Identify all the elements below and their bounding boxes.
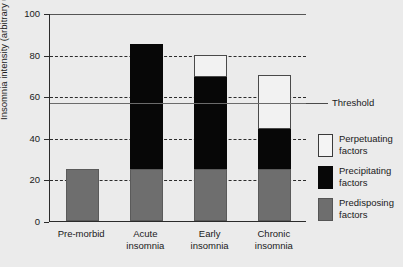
legend-item: Perpetuatingfactors <box>318 133 403 165</box>
y-axis-tick-label: 60 <box>0 92 40 102</box>
y-axis-tick-label: 40 <box>0 134 40 144</box>
legend-item: Predisposingfactors <box>318 197 403 229</box>
bar-segment-perpetuating <box>194 55 227 78</box>
x-axis-label: Chronicinsomnia <box>224 228 324 251</box>
bar-group <box>66 13 99 221</box>
bar-group <box>258 13 291 221</box>
threshold-rule <box>50 103 306 104</box>
legend-item-label: Precipitatingfactors <box>339 165 403 188</box>
legend-item: Precipitatingfactors <box>318 165 403 197</box>
bar-segment-predisposing <box>258 169 291 221</box>
threshold-label: Threshold <box>332 98 374 108</box>
bar-segment-predisposing <box>130 169 163 221</box>
y-axis-tick-label: 80 <box>0 51 40 61</box>
y-axis-tick-label: 20 <box>0 175 40 185</box>
bar-segment-predisposing <box>66 169 99 221</box>
y-axis-tick-label: 0 <box>0 217 40 227</box>
legend-swatch-perpetuating <box>318 134 333 157</box>
bar-group <box>130 13 163 221</box>
y-axis-tick-mark <box>44 222 49 223</box>
bar-segment-perpetuating <box>258 75 291 129</box>
bar-group <box>194 13 227 221</box>
bar-segment-predisposing <box>194 169 227 221</box>
legend-item-label: Predisposingfactors <box>339 197 403 220</box>
y-axis-tick-label: 100 <box>0 9 40 19</box>
bar-segment-precipitating <box>194 77 227 169</box>
chart-legend: PerpetuatingfactorsPrecipitatingfactorsP… <box>318 133 403 229</box>
legend-swatch-predisposing <box>318 198 333 221</box>
legend-swatch-precipitating <box>318 166 333 189</box>
bar-segment-precipitating <box>130 44 163 169</box>
bar-segment-precipitating <box>258 129 291 169</box>
plot-area <box>49 14 306 222</box>
legend-item-label: Perpetuatingfactors <box>339 133 403 156</box>
insomnia-intensity-chart: Insomnia intensity (arbitrary units) 020… <box>0 0 403 267</box>
threshold-leader-line <box>306 103 328 104</box>
